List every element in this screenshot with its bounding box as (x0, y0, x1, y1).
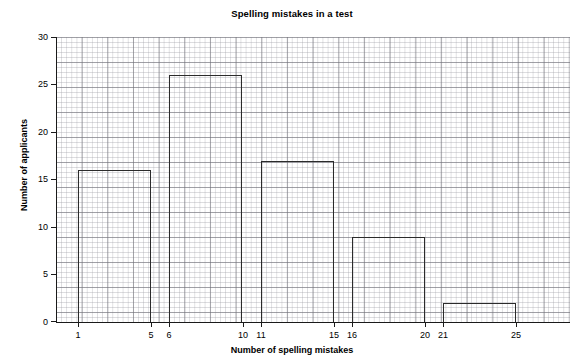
y-tick-label-25: 25 (26, 80, 48, 89)
x-tick-mark-15 (334, 322, 335, 327)
x-tick-label-25: 25 (501, 331, 531, 340)
x-tick-mark-20 (425, 322, 426, 327)
y-tick-label-15: 15 (26, 175, 48, 184)
y-axis-line (56, 37, 57, 322)
y-axis-title: Number of applicants (19, 85, 29, 245)
x-tick-mark-1 (78, 322, 79, 327)
x-tick-mark-6 (169, 322, 170, 327)
chart-title: Spelling mistakes in a test (0, 8, 584, 19)
x-tick-label-6: 6 (154, 331, 184, 340)
y-tick-label-10: 10 (26, 223, 48, 232)
x-tick-label-11: 11 (246, 331, 276, 340)
x-tick-mark-5 (151, 322, 152, 327)
spelling-mistakes-histogram: Spelling mistakes in a test 0 5 10 15 20… (0, 0, 584, 363)
y-tick-mark-25 (51, 84, 56, 85)
y-tick-mark-5 (51, 274, 56, 275)
x-axis-title: Number of spelling mistakes (0, 345, 584, 355)
x-tick-mark-10 (243, 322, 244, 327)
bar-21-25 (443, 303, 516, 322)
y-tick-mark-20 (51, 132, 56, 133)
x-tick-mark-21 (443, 322, 444, 327)
x-axis-line (56, 322, 570, 323)
bar-16-20 (352, 237, 425, 323)
bar-6-10 (169, 75, 242, 322)
y-tick-mark-15 (51, 179, 56, 180)
x-tick-mark-11 (261, 322, 262, 327)
bar-1-5 (78, 170, 151, 322)
x-tick-label-16: 16 (337, 331, 367, 340)
x-tick-mark-25 (516, 322, 517, 327)
y-tick-label-5: 5 (26, 270, 48, 279)
y-tick-label-20: 20 (26, 128, 48, 137)
x-tick-mark-16 (352, 322, 353, 327)
x-tick-label-21: 21 (428, 331, 458, 340)
x-tick-label-1: 1 (63, 331, 93, 340)
y-tick-label-30: 30 (26, 33, 48, 42)
y-tick-mark-0 (51, 321, 56, 322)
y-tick-label-0: 0 (26, 318, 48, 327)
y-tick-mark-30 (51, 37, 56, 38)
plot-area (56, 37, 570, 322)
y-tick-mark-10 (51, 227, 56, 228)
bar-11-15 (261, 161, 334, 323)
